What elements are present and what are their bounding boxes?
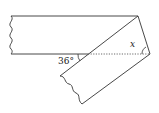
angle-arc-x — [142, 47, 146, 54]
wavy-folded-edge — [60, 76, 82, 104]
fold-line — [60, 16, 138, 76]
folded-strip-figure: 36° x — [0, 0, 159, 113]
folded-lower-edge — [82, 54, 150, 104]
diagram-canvas: 36° x — [0, 0, 159, 113]
angle-label-36: 36° — [58, 56, 74, 66]
angle-label-x: x — [130, 39, 135, 49]
wavy-left-edge — [10, 16, 12, 54]
angle-arc-36 — [78, 54, 80, 61]
